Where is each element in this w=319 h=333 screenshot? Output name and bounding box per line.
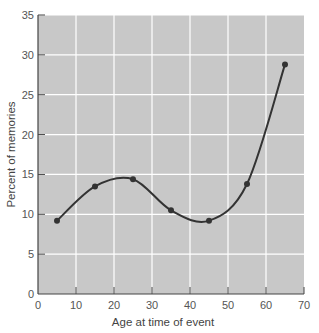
x-tick-label: 50 <box>222 299 234 311</box>
y-tick-label: 35 <box>22 9 34 21</box>
data-point <box>130 176 136 182</box>
x-tick-label: 70 <box>298 299 310 311</box>
data-point <box>244 181 250 187</box>
plot-area <box>38 15 304 294</box>
data-point <box>54 218 60 224</box>
data-point <box>206 218 212 224</box>
data-point <box>282 61 288 67</box>
y-tick-label: 0 <box>28 288 34 300</box>
x-tick-label: 20 <box>108 299 120 311</box>
x-axis-label: Age at time of event <box>112 316 215 328</box>
x-tick-label: 60 <box>260 299 272 311</box>
y-tick-label: 25 <box>22 89 34 101</box>
y-tick-label: 15 <box>22 168 34 180</box>
y-tick-label: 10 <box>22 208 34 220</box>
y-tick-label: 30 <box>22 49 34 61</box>
y-tick-label: 20 <box>22 129 34 141</box>
y-axis-label: Percent of memories <box>5 101 17 207</box>
x-tick-label: 30 <box>146 299 158 311</box>
x-tick-label: 0 <box>35 299 41 311</box>
data-point <box>92 183 98 189</box>
x-tick-label: 10 <box>70 299 82 311</box>
data-point <box>168 207 174 213</box>
line-chart: 010203040506070 05101520253035 Age at ti… <box>0 0 319 333</box>
x-tick-label: 40 <box>184 299 196 311</box>
y-tick-label: 5 <box>28 248 34 260</box>
